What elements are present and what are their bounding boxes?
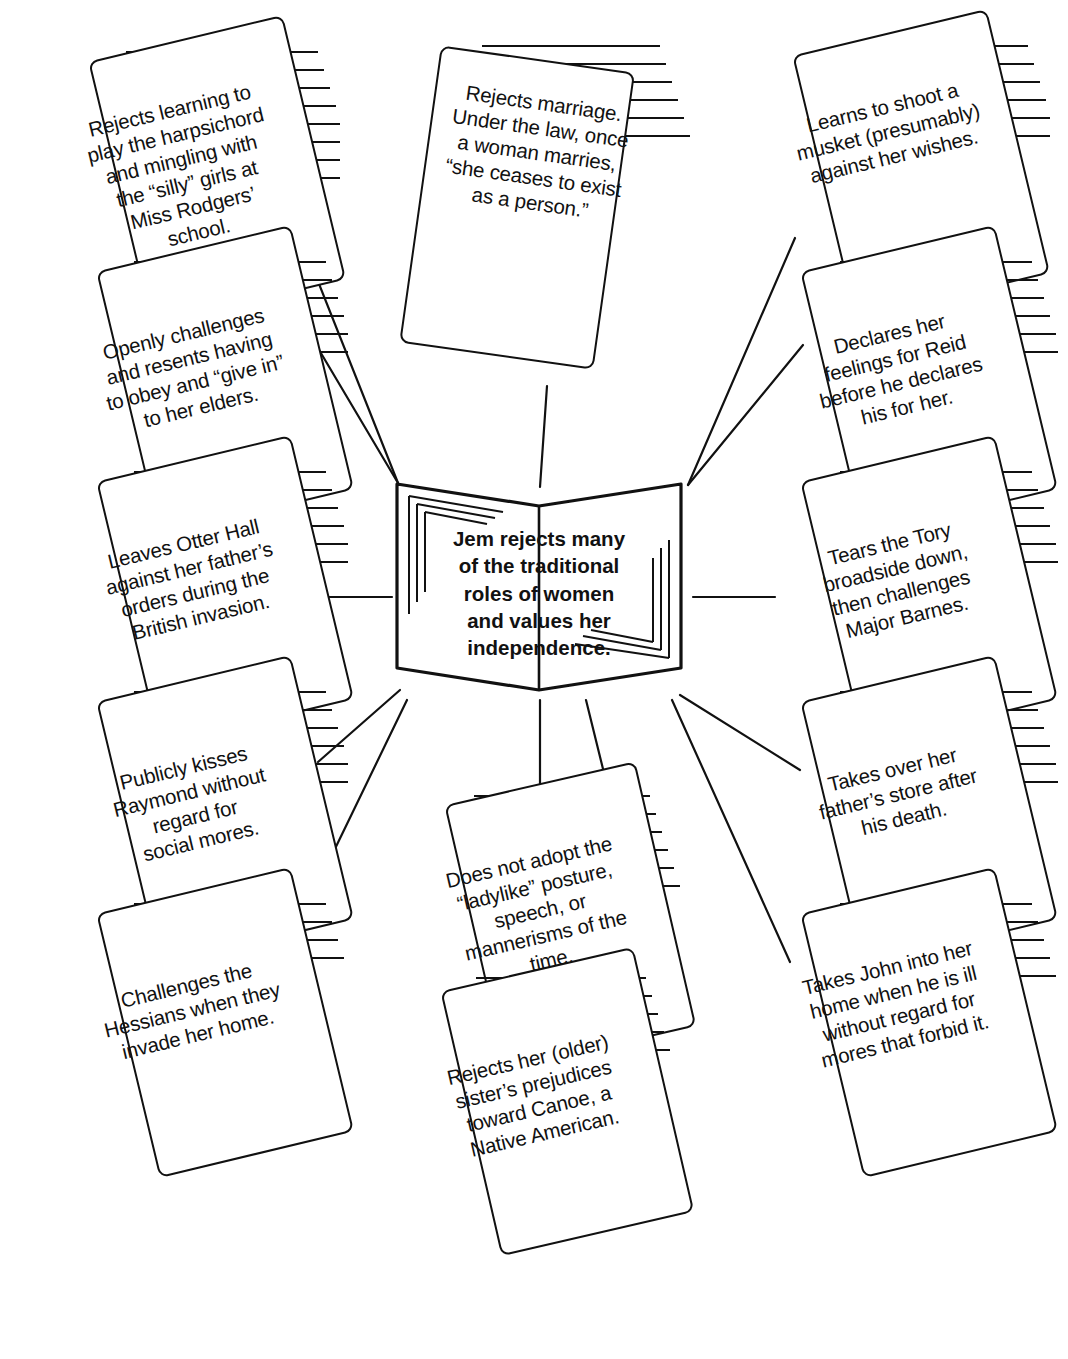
central-idea-text: Jem rejects many of the traditional role… (400, 525, 678, 661)
note-card-hessians[interactable]: Challenges the Hessians when they invade… (48, 896, 348, 1196)
note-card-john-ill[interactable]: Takes John into her home when he is ill … (748, 896, 1058, 1196)
idea-web-diagram: Rejects learning to play the harpsichord… (0, 0, 1068, 1359)
note-card-marriage[interactable]: Rejects marriage. Under the law, once a … (398, 34, 698, 374)
note-card-canoe[interactable]: Rejects her (older) sister’s prejudices … (398, 968, 698, 1268)
